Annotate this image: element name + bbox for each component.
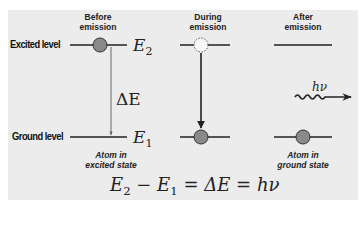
- caption-ground-line2: ground state: [263, 160, 343, 170]
- caption-ground-state: Atom in ground state: [263, 150, 343, 170]
- electron-descending-icon: [194, 130, 208, 144]
- e1-label: E1: [133, 127, 152, 150]
- e2-label: E2: [133, 35, 152, 58]
- caption-excited-line2: excited state: [71, 160, 151, 170]
- photon-label: hν: [312, 80, 327, 94]
- delta-e-label: ΔE: [116, 89, 141, 109]
- electron-excited-icon: [93, 38, 107, 52]
- photon-wave-icon: [295, 95, 351, 99]
- electron-vacated-icon: [194, 38, 208, 52]
- caption-ground-line1: Atom in: [263, 150, 343, 160]
- caption-excited-line1: Atom in: [71, 150, 151, 160]
- caption-excited-state: Atom in excited state: [71, 150, 151, 170]
- energy-equation: E2 − E1 = ΔE = hν: [110, 174, 279, 198]
- electron-ground-icon: [296, 130, 310, 144]
